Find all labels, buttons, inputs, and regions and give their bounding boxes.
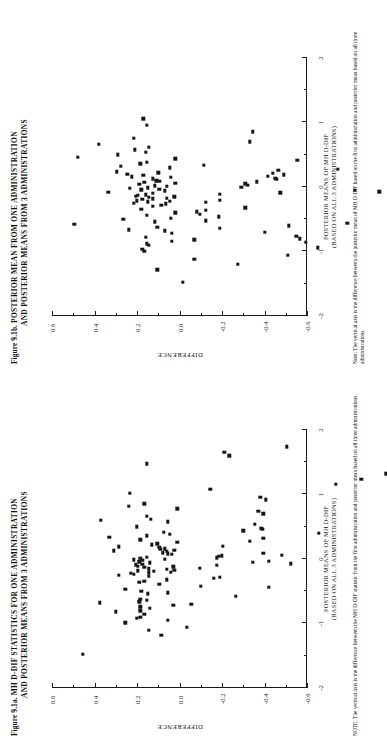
scatter-point [161,551,164,554]
x-tick [302,251,307,252]
x-tick-minor [304,526,307,527]
y-tick-minor [116,313,117,316]
figure-9-1a: Figure 9.1a. MH D-DIF STATISTICS FOR ONE… [0,372,387,744]
scatter-point [262,537,265,540]
scatter-point [158,180,161,183]
scatter-point [121,218,124,221]
figure-a-title-line2: AND POSTERIOR MEANS FROM 3 ADMINISTRATIO… [20,406,30,698]
scatter-point [256,510,259,513]
scatter-point [138,162,141,165]
scatter-point [217,215,220,218]
x-tick [302,186,307,187]
y-tick-minor [243,685,244,688]
scatter-point [277,169,280,172]
scatter-point [176,541,179,544]
scatter-point [146,200,149,203]
scatter-point [99,519,102,522]
scatter-point [138,609,141,612]
scatter-point [170,239,173,242]
y-tick [52,311,53,316]
x-tick-minor [304,283,307,284]
x-tick [302,494,307,495]
scatter-point [168,200,171,203]
scatter-point [158,582,161,585]
scatter-point [144,193,147,196]
scatter-point [202,163,205,166]
scatter-point [155,542,158,545]
scatter-point [317,532,320,535]
scatter-point [263,230,266,233]
scatter-point [145,123,148,126]
scatter-point [140,188,143,191]
scatter-point [157,171,160,174]
scatter-point [127,228,130,231]
figure-a-note-text: The vertical axis is the difference betw… [352,394,358,719]
scatter-point [170,553,173,556]
scatter-point [195,210,198,213]
y-tick-minor [116,685,117,688]
scatter-point [264,498,267,501]
y-tick [137,683,138,688]
scatter-point [166,591,169,594]
scatter-point [119,165,122,168]
scatter-point [143,502,146,505]
scatter-point [170,232,173,235]
scatter-point [138,557,141,560]
scatter-point [147,196,150,199]
scatter-point [147,628,150,631]
scatter-point [198,566,201,569]
scatter-point [154,179,157,182]
y-tick-minor [286,685,287,688]
y-tick [52,683,53,688]
y-tick-label: -0.6 [304,694,311,704]
y-tick [265,311,266,316]
scatter-point [259,495,262,498]
scatter-point [137,581,140,584]
scatter-point [172,548,175,551]
scatter-point [143,613,146,616]
scatter-point [124,588,127,591]
scatter-point [253,522,256,525]
figure-a-plot-area: -2-1012-0.6-0.4-0.20.00.20.40.6 [52,430,307,688]
scatter-point [221,544,224,547]
scatter-point [158,187,161,190]
scatter-point [145,462,148,465]
scatter-point [134,563,137,566]
scatter-point [160,203,163,206]
x-tick-minor [304,655,307,656]
scatter-point [171,604,174,607]
scatter-point [174,211,177,214]
scatter-point [279,191,282,194]
scatter-point [140,590,143,593]
scatter-point [234,595,237,598]
scatter-point [172,195,175,198]
scatter-point [143,181,146,184]
scatter-point [189,602,192,605]
x-tick [302,57,307,58]
scatter-point [378,190,381,193]
scatter-point [218,192,221,195]
figure-b-number: Figure 9.1b. [10,325,19,364]
y-tick [265,683,266,688]
figure-b-title-line1: POSTERIOR MEAN FROM ONE ADMINISTRATION [10,131,19,323]
scatter-point [162,530,165,533]
scatter-point [244,182,247,185]
scatter-point [115,170,118,173]
scatter-point [165,578,168,581]
scatter-point [138,605,141,608]
y-tick [137,311,138,316]
scatter-point [172,568,175,571]
scatter-point [128,187,131,190]
scatter-point [145,161,148,164]
scatter-point [242,529,245,532]
scatter-point [130,175,133,178]
scatter-point [145,242,148,245]
scatter-point [146,186,149,189]
scatter-point [271,172,274,175]
scatter-point [116,153,119,156]
y-tick-label: -0.2 [219,322,226,332]
x-tick [302,558,307,559]
figure-a-x-axis-title: POSTERIOR MEANS OF MH D-DIF (BASED ON AL… [322,430,339,688]
scatter-point [151,192,154,195]
scatter-point [295,234,298,237]
